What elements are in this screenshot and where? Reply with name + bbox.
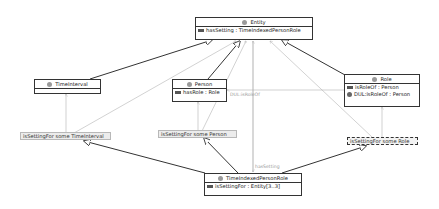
object-property-icon <box>198 29 204 32</box>
class-name: TimeIndexedPersonRole <box>226 175 288 181</box>
attribute-row[interactable]: hasRole : Role <box>173 89 226 96</box>
object-property-icon <box>175 91 181 94</box>
class-time-indexed-person-role[interactable]: TimeIndexedPersonRole isSettingFor : Ent… <box>204 173 302 196</box>
restriction-role[interactable]: isSettingFor some Role <box>347 137 418 145</box>
attribute-row[interactable]: isSettingFor : Entity[3..3] <box>205 183 301 190</box>
attribute-row[interactable]: DUL:isRoleOf : Person <box>345 91 419 98</box>
class-icon <box>242 20 247 25</box>
class-name: Person <box>195 81 212 87</box>
class-icon <box>218 176 223 181</box>
object-property-icon <box>207 185 213 188</box>
class-person[interactable]: Person hasRole : Role <box>172 79 227 102</box>
class-name: Role <box>380 76 391 82</box>
attribute-row[interactable]: isRoleOf : Person <box>345 84 419 91</box>
restriction-person[interactable]: isSettingFor some Person <box>158 130 237 138</box>
attribute-row[interactable]: hasSetting : TimeIndexedPersonRole <box>196 27 312 34</box>
class-icon <box>47 82 52 87</box>
class-icon <box>372 77 377 82</box>
object-property-icon <box>347 86 353 89</box>
class-entity[interactable]: Entity hasSetting : TimeIndexedPersonRol… <box>195 17 313 40</box>
edge-label-has-setting: hasSetting <box>255 164 280 169</box>
restriction-time-interval[interactable]: isSettingFor some TimeInterval <box>20 132 111 140</box>
class-name: Entity <box>250 19 265 25</box>
class-name: TimeInterval <box>55 81 88 87</box>
edge-label-dul-is-role-of: DUL:isRoleOf <box>230 92 260 97</box>
imported-property-icon <box>347 92 352 97</box>
class-time-interval[interactable]: TimeInterval <box>34 79 101 94</box>
class-role[interactable]: Role isRoleOf : Person DUL:isRoleOf : Pe… <box>344 74 420 107</box>
class-icon <box>187 82 192 87</box>
